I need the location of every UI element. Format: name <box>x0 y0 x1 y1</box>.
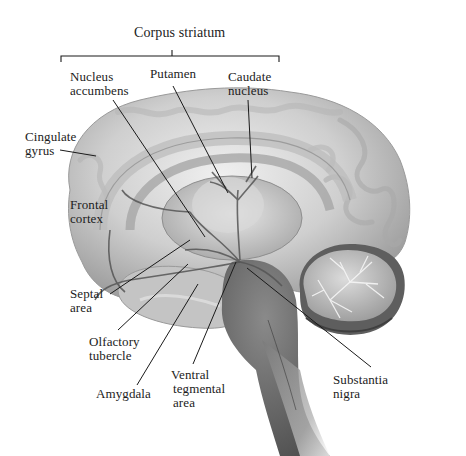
label-amygdala: Amygdala <box>96 387 151 401</box>
label-septal-area-line2: area <box>70 301 103 315</box>
label-cingulate-gyrus-line2: gyrus <box>25 144 76 158</box>
label-frontal-cortex-line2: cortex <box>70 212 108 226</box>
label-nucleus-accumbens: Nucleus accumbens <box>70 70 129 98</box>
label-cingulate-gyrus-line1: Cingulate <box>25 130 76 144</box>
label-corpus-striatum: Corpus striatum <box>134 26 225 40</box>
label-olfactory-tubercle: Olfactory tubercle <box>89 335 140 363</box>
label-caudate-nucleus-line2: nucleus <box>228 84 271 98</box>
cerebellum <box>300 244 405 335</box>
label-olfactory-tubercle-line1: Olfactory <box>89 335 140 349</box>
label-olfactory-tubercle-line2: tubercle <box>89 349 140 363</box>
label-nucleus-accumbens-line2: accumbens <box>70 84 129 98</box>
label-caudate-nucleus-line1: Caudate <box>228 70 271 84</box>
label-caudate-nucleus: Caudate nucleus <box>228 70 271 98</box>
label-nucleus-accumbens-line1: Nucleus <box>70 70 129 84</box>
label-ventral-tegmental-area-line1: Ventral <box>171 368 225 382</box>
label-substantia-nigra-line1: Substantia <box>333 373 388 387</box>
label-ventral-tegmental-area-line3: area <box>171 396 225 410</box>
label-septal-area-line1: Septal <box>70 287 103 301</box>
label-frontal-cortex: Frontal cortex <box>70 198 108 226</box>
label-ventral-tegmental-area-line2: tegmental <box>171 382 225 396</box>
label-putamen: Putamen <box>150 67 196 81</box>
label-substantia-nigra-line2: nigra <box>333 387 388 401</box>
label-substantia-nigra: Substantia nigra <box>333 373 388 401</box>
label-cingulate-gyrus: Cingulate gyrus <box>25 130 76 158</box>
corpus-striatum-bracket <box>61 50 279 62</box>
label-ventral-tegmental-area: Ventral tegmental area <box>171 368 225 410</box>
label-frontal-cortex-line1: Frontal <box>70 198 108 212</box>
label-septal-area: Septal area <box>70 287 103 315</box>
